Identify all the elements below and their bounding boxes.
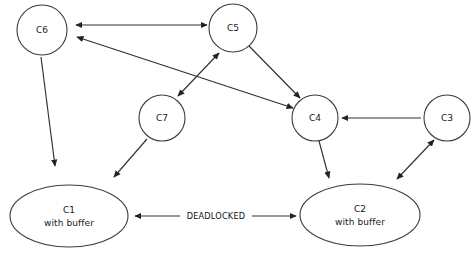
edge-label-c1-c2: DEADLOCKED — [187, 211, 246, 221]
node-label-c4: C4 — [309, 113, 321, 123]
node-ellipse-c2 — [300, 184, 420, 246]
node-c5[interactable]: C5 — [209, 4, 257, 52]
deadlock-graph: C6C5C7C4C3C1with bufferC2with buffer DEA… — [0, 0, 472, 253]
node-label-c7: C7 — [156, 113, 168, 123]
node-label-c2: C2 — [354, 204, 366, 214]
edge-c7-c5 — [178, 53, 219, 96]
edge-c5-c4 — [249, 46, 300, 98]
node-sublabel-c2: with buffer — [335, 217, 385, 227]
node-sublabel-c1: with buffer — [44, 218, 94, 228]
edge-c3-c2 — [397, 140, 434, 179]
node-label-c6: C6 — [36, 25, 48, 35]
node-c7[interactable]: C7 — [139, 95, 185, 141]
diagram-canvas: C6C5C7C4C3C1with bufferC2with buffer DEA… — [0, 0, 472, 253]
node-label-c3: C3 — [441, 113, 453, 123]
node-c1[interactable]: C1with buffer — [10, 185, 128, 247]
edge-labels-layer: DEADLOCKED — [187, 211, 246, 221]
node-c6[interactable]: C6 — [17, 5, 67, 55]
edge-c7-c1 — [114, 139, 147, 177]
edge-c4-c2 — [319, 141, 329, 178]
edge-c6-c1 — [41, 57, 55, 166]
edge-c6-c4 — [77, 37, 293, 108]
node-label-c1: C1 — [63, 205, 75, 215]
node-c3[interactable]: C3 — [424, 95, 470, 141]
node-c2[interactable]: C2with buffer — [300, 184, 420, 246]
node-label-c5: C5 — [227, 23, 239, 33]
node-ellipse-c1 — [10, 185, 128, 247]
node-c4[interactable]: C4 — [292, 95, 338, 141]
